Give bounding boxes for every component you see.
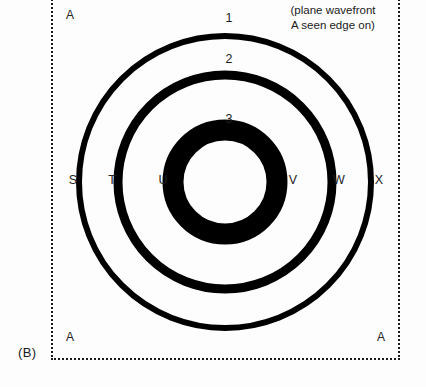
axis-label-u: U bbox=[155, 173, 171, 187]
axis-label-v: V bbox=[285, 173, 301, 187]
axis-label-s: S bbox=[65, 173, 81, 187]
wavefront-ring-1 bbox=[79, 36, 371, 328]
figure-panel-b: (B) A A A (plane wavefront A seen edge o… bbox=[0, 0, 426, 387]
ring-number-2: 2 bbox=[219, 52, 239, 66]
axis-label-t: T bbox=[104, 173, 120, 187]
ring-number-3: 3 bbox=[219, 112, 239, 126]
ring-number-1: 1 bbox=[219, 11, 239, 25]
concentric-wavefront-rings bbox=[0, 0, 426, 387]
wavefront-ring-3 bbox=[173, 130, 277, 234]
axis-label-x: X bbox=[371, 173, 387, 187]
axis-label-w: W bbox=[331, 173, 347, 187]
